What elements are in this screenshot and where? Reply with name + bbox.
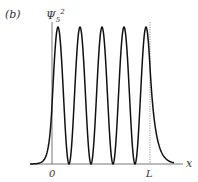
- tick-L: L: [145, 168, 153, 179]
- panel-label: (b): [5, 8, 21, 21]
- tick-zero: 0: [49, 168, 56, 179]
- y-label-sub: 5: [56, 16, 61, 24]
- figure: (b) Ψ52 x 0 L: [0, 0, 198, 182]
- y-label-base: Ψ: [46, 9, 56, 22]
- y-label-sup: 2: [59, 8, 65, 16]
- x-axis-label: x: [186, 157, 193, 170]
- y-axis-label: Ψ52: [46, 8, 65, 24]
